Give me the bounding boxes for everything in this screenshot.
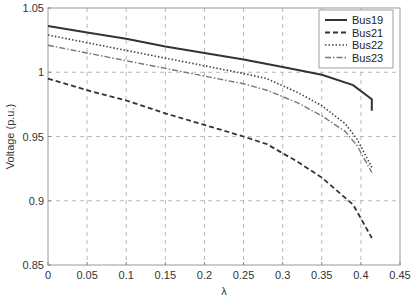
- legend-entry: Bus19: [352, 14, 383, 26]
- series-bus21: [48, 79, 372, 238]
- y-tick-label: 0.95: [23, 131, 44, 143]
- voltage-chart: 00.050.10.150.20.250.30.350.40.45 0.850.…: [0, 0, 413, 305]
- legend-entry: Bus22: [352, 39, 383, 51]
- x-tick-label: 0.3: [275, 269, 290, 281]
- x-tick-label: 0: [45, 269, 51, 281]
- legend-entry: Bus23: [352, 52, 383, 64]
- y-tick-label: 0.85: [23, 259, 44, 271]
- y-tick-label: 0.9: [29, 195, 44, 207]
- y-axis-label: Voltage (p.u.): [4, 104, 16, 169]
- x-tick-label: 0.4: [353, 269, 368, 281]
- x-tick-label: 0.2: [197, 269, 212, 281]
- legend: Bus19Bus21Bus22Bus23: [319, 10, 393, 68]
- x-tick-label: 0.05: [76, 269, 97, 281]
- x-tick-label: 0.25: [233, 269, 254, 281]
- legend-entry: Bus21: [352, 27, 383, 39]
- x-axis-label: λ: [221, 285, 227, 297]
- x-tick-label: 0.45: [389, 269, 410, 281]
- y-tick-label: 1: [38, 66, 44, 78]
- x-tick-label: 0.15: [155, 269, 176, 281]
- x-tick-label: 0.1: [119, 269, 134, 281]
- x-tick-label: 0.35: [311, 269, 332, 281]
- y-tick-label: 1.05: [23, 2, 44, 14]
- y-axis-ticks: 0.850.90.9511.05: [23, 2, 51, 271]
